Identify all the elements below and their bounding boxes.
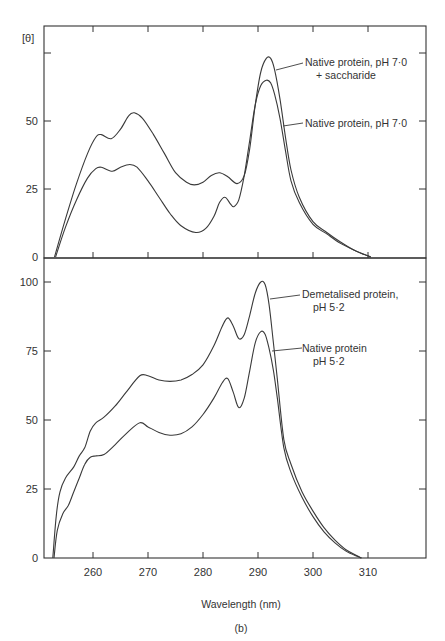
x-tick-label: 290 <box>249 566 267 578</box>
chart-canvas: 02550 [θ] Native protein, pH 7·0 + sacch… <box>0 0 445 641</box>
lower-axis-ticks: 0255075100260270280290300310 <box>20 276 426 578</box>
series-curve-0-0 <box>55 57 371 257</box>
x-tick-label: 270 <box>139 566 157 578</box>
y-axis-label: [θ] <box>22 32 34 44</box>
leader-line-native-7 <box>283 123 303 126</box>
upper-curves <box>55 57 371 257</box>
x-tick-label: 260 <box>84 566 102 578</box>
label-demetalised-line1: Demetalised protein, <box>302 288 398 300</box>
label-native-saccharide-line1: Native protein, pH 7·0 <box>305 56 407 68</box>
lower-plot-frame <box>44 258 426 558</box>
y-tick-label: 50 <box>26 115 38 127</box>
label-native-saccharide-line2: + saccharide <box>316 69 376 81</box>
panel-label: (b) <box>235 622 248 634</box>
label-native-ph7: Native protein, pH 7·0 <box>305 117 407 129</box>
panel-lower: 0255075100260270280290300310 Demetalised… <box>20 258 426 578</box>
y-tick-label: 25 <box>26 183 38 195</box>
label-native-ph52-line1: Native protein <box>302 342 367 354</box>
y-tick-label: 25 <box>26 483 38 495</box>
label-demetalised-line2: pH 5·2 <box>313 301 345 313</box>
x-tick-label: 280 <box>194 566 212 578</box>
label-native-ph52-line2: pH 5·2 <box>313 355 345 367</box>
cd-spectrum-figure: 02550 [θ] Native protein, pH 7·0 + sacch… <box>0 0 445 641</box>
x-axis-title: Wavelength (nm) <box>201 598 281 610</box>
y-tick-label: 100 <box>20 276 38 288</box>
y-tick-label: 0 <box>32 552 38 564</box>
lower-curves <box>53 281 362 558</box>
leader-line-demetalised <box>270 295 300 299</box>
leader-line-native-52 <box>272 348 302 351</box>
panel-upper: 02550 [θ] Native protein, pH 7·0 + sacch… <box>22 26 426 263</box>
y-tick-label: 75 <box>26 345 38 357</box>
series-curve-1-0 <box>53 281 362 558</box>
x-tick-label: 310 <box>359 566 377 578</box>
y-tick-label: 0 <box>32 251 38 263</box>
x-tick-label: 300 <box>304 566 322 578</box>
leader-line-saccharide <box>276 63 303 70</box>
y-tick-label: 50 <box>26 414 38 426</box>
